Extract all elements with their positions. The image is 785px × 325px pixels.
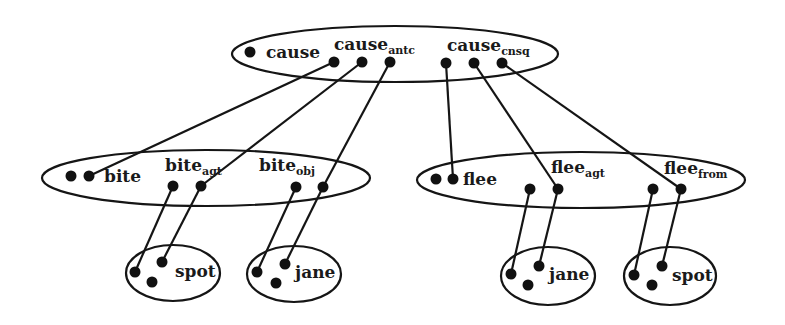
label-bite: bite bbox=[104, 166, 141, 186]
dot-spot-left-2 bbox=[157, 257, 168, 268]
dot-bite-obj-1 bbox=[291, 182, 302, 193]
label-flee-from: fleefrom bbox=[664, 158, 728, 181]
dot-jane-left-2 bbox=[280, 259, 291, 270]
network-diagram: cause causeantc causecnsq bite biteagt b… bbox=[0, 0, 785, 325]
label-cause-cnsq: causecnsq bbox=[447, 35, 530, 58]
link-flee-from-spot-1 bbox=[634, 189, 653, 275]
dot-bite-agt-2 bbox=[196, 181, 207, 192]
label-flee: flee bbox=[463, 169, 497, 189]
link-flee-agt-jane-2 bbox=[539, 189, 558, 266]
node-cause: cause causeantc causecnsq bbox=[232, 26, 558, 82]
dot-jane-right-2 bbox=[534, 261, 545, 272]
dot-bite-1 bbox=[66, 171, 77, 182]
node-jane-left: jane bbox=[247, 246, 341, 302]
label-jane-right: jane bbox=[547, 264, 590, 284]
dot-flee-agt-2 bbox=[553, 184, 564, 195]
label-bite-agt: biteagt bbox=[165, 155, 223, 178]
dot-cause-cnsq-2 bbox=[469, 58, 480, 69]
dot-flee-2 bbox=[448, 174, 459, 185]
dot-jane-right-1 bbox=[506, 269, 517, 280]
dot-spot-right-3 bbox=[647, 280, 658, 291]
label-spot-right: spot bbox=[672, 265, 713, 285]
label-flee-agt: fleeagt bbox=[551, 157, 606, 180]
dot-cause-antc-3 bbox=[385, 57, 396, 68]
dot-cause-cnsq-1 bbox=[441, 58, 452, 69]
dot-bite-2 bbox=[84, 171, 95, 182]
dot-bite-obj-2 bbox=[318, 182, 329, 193]
dot-cause bbox=[245, 47, 256, 58]
node-bite: bite biteagt biteobj bbox=[42, 150, 370, 206]
label-spot-left: spot bbox=[175, 261, 216, 281]
link-bite-obj-jane-1 bbox=[257, 187, 296, 272]
dot-flee-from-1 bbox=[648, 184, 659, 195]
dot-bite-agt-1 bbox=[168, 181, 179, 192]
dot-flee-agt-1 bbox=[525, 184, 536, 195]
label-bite-obj: biteobj bbox=[259, 155, 315, 178]
node-spot-right: spot bbox=[624, 247, 716, 305]
link-cause-antc-bite bbox=[89, 62, 334, 176]
link-bite-agt-spot-1 bbox=[135, 186, 173, 272]
dot-jane-left-3 bbox=[271, 278, 282, 289]
dot-spot-left-1 bbox=[130, 267, 141, 278]
dot-cause-antc-1 bbox=[329, 57, 340, 68]
link-flee-from-spot-2 bbox=[662, 189, 681, 266]
dot-flee-from-2 bbox=[676, 184, 687, 195]
label-cause: cause bbox=[266, 42, 320, 62]
link-flee-agt-jane-1 bbox=[511, 189, 530, 274]
node-spot-left: spot bbox=[126, 245, 220, 301]
dot-spot-right-1 bbox=[629, 270, 640, 281]
dot-cause-antc-2 bbox=[357, 57, 368, 68]
dot-spot-right-2 bbox=[657, 261, 668, 272]
label-cause-antc: causeantc bbox=[334, 34, 415, 57]
dot-jane-right-3 bbox=[523, 280, 534, 291]
dot-jane-left-1 bbox=[252, 267, 263, 278]
dot-cause-cnsq-3 bbox=[497, 58, 508, 69]
label-jane-left: jane bbox=[293, 262, 336, 282]
dot-spot-left-3 bbox=[147, 277, 158, 288]
dot-flee-1 bbox=[431, 174, 442, 185]
node-flee: flee fleeagt fleefrom bbox=[417, 152, 745, 208]
node-jane-right: jane bbox=[501, 247, 595, 305]
